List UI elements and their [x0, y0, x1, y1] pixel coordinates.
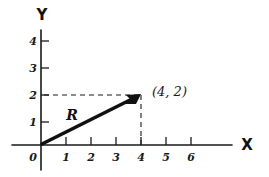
x-axis-ticks — [66, 137, 191, 145]
x-tick-label-2: 2 — [86, 151, 95, 164]
y-axis-tick-labels: 1 2 3 4 — [28, 35, 37, 129]
vector-diagram-figure: 1 2 3 4 5 6 1 2 3 4 0 X Y R (4, 2) — [0, 0, 269, 177]
x-tick-label-1: 1 — [62, 151, 70, 164]
x-axis-label: X — [241, 136, 253, 154]
x-axis-tick-labels: 1 2 3 4 5 6 — [62, 151, 195, 164]
y-axis-label: Y — [36, 6, 49, 24]
y-tick-label-3: 3 — [29, 62, 37, 75]
vector-r-label: R — [65, 107, 78, 123]
diagram-canvas: 1 2 3 4 5 6 1 2 3 4 0 X Y R (4, 2) — [0, 0, 269, 177]
y-tick-label-2: 2 — [28, 89, 37, 102]
vector-r — [42, 94, 141, 144]
point-coordinate-label: (4, 2) — [152, 84, 187, 99]
origin-label: 0 — [29, 151, 37, 164]
vector-r-shaft — [42, 98, 134, 144]
x-tick-label-6: 6 — [187, 151, 195, 164]
y-axis-ticks — [41, 41, 49, 122]
axis-lines — [12, 30, 232, 170]
y-tick-label-4: 4 — [29, 35, 37, 48]
y-tick-label-1: 1 — [29, 116, 37, 129]
x-tick-label-4: 4 — [137, 151, 145, 164]
x-tick-label-5: 5 — [162, 151, 170, 164]
x-tick-label-3: 3 — [112, 151, 120, 164]
